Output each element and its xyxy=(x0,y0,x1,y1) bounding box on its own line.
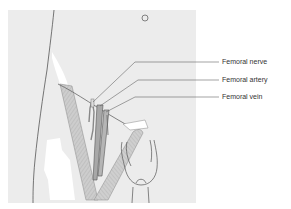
femoral-triangle-diagram xyxy=(0,0,291,209)
label-femoral-vein: Femoral vein xyxy=(222,93,262,101)
label-femoral-artery: Femoral artery xyxy=(222,76,268,84)
femoral-nerve-stub xyxy=(91,99,94,107)
label-femoral-nerve: Femoral nerve xyxy=(222,58,267,66)
